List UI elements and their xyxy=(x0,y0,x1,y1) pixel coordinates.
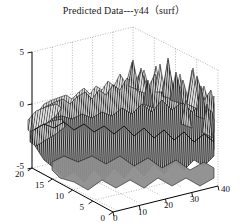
y-tick-label-0: 0 xyxy=(101,213,106,223)
y-tick-label-20: 20 xyxy=(15,169,25,179)
x-tick-label-10: 10 xyxy=(138,207,148,217)
x-tick-label-40: 40 xyxy=(221,184,231,194)
y-tick-label-10: 10 xyxy=(55,191,65,201)
y-tick-label-5: 5 xyxy=(80,202,85,212)
z-tick-label-5: 5 xyxy=(20,47,25,57)
y-tick-label-15: 15 xyxy=(35,180,45,190)
z-tick-label-0: 0 xyxy=(20,99,25,109)
x-tick-label-30: 30 xyxy=(190,194,200,204)
x-tick-label-0: 0 xyxy=(113,213,118,223)
figure-canvas: Predicted Data---y44（surf） xyxy=(0,0,248,223)
x-tick-label-20: 20 xyxy=(164,200,174,210)
axes-3d: 5 0 -5 20 15 10 5 0 0 10 20 30 40 xyxy=(0,0,248,223)
z-axis-tick-labels: 5 0 -5 xyxy=(17,47,25,171)
